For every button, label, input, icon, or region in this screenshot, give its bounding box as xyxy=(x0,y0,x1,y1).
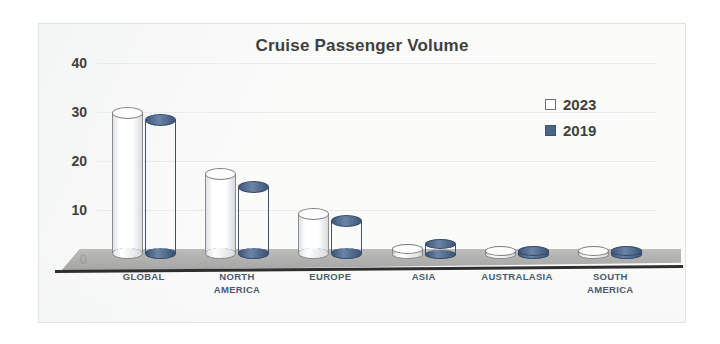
x-axis-label: NORTHAMERICA xyxy=(190,271,283,297)
bar-2023-australasia xyxy=(485,246,516,259)
x-axis-label: AUSTRALASIA xyxy=(470,271,563,297)
chart-screenshot: Cruise Passenger Volume 40 30 20 10 0 GL… xyxy=(0,0,720,344)
bar-top-ellipse xyxy=(238,181,269,193)
x-axis-label: ASIA xyxy=(377,271,470,297)
chart-frame: Cruise Passenger Volume 40 30 20 10 0 GL… xyxy=(38,23,686,323)
bar-top-ellipse xyxy=(112,107,143,119)
bar-bottom-ellipse xyxy=(331,248,362,259)
x-axis-label: EUROPE xyxy=(284,271,377,297)
bar-2019-north-america xyxy=(238,181,269,259)
legend-swatch-icon-2019 xyxy=(545,125,556,136)
bar-2023-north-america xyxy=(205,168,236,259)
x-axis-label: GLOBAL xyxy=(97,271,190,297)
bar-body xyxy=(238,187,269,254)
bar-2023-south-america xyxy=(578,246,609,259)
bar-group xyxy=(190,63,283,259)
bar-bottom-ellipse xyxy=(145,248,176,259)
bar-top-ellipse xyxy=(485,246,516,256)
x-axis-labels: GLOBALNORTHAMERICAEUROPEASIAAUSTRALASIAS… xyxy=(97,271,657,297)
legend-swatch-icon-2023 xyxy=(545,99,556,110)
legend-item-2023: 2023 xyxy=(545,96,596,113)
bar-2019-south-america xyxy=(611,246,642,259)
bar-2023-europe xyxy=(298,208,329,259)
bar-group xyxy=(470,63,563,259)
x-axis-label: SOUTHAMERICA xyxy=(564,271,657,297)
bar-body xyxy=(112,113,143,254)
chart-title: Cruise Passenger Volume xyxy=(39,36,685,56)
bar-2019-australasia xyxy=(518,246,549,259)
bar-body xyxy=(145,120,176,254)
bar-group xyxy=(284,63,377,259)
bar-bottom-ellipse xyxy=(238,248,269,259)
bar-group xyxy=(97,63,190,259)
bar-top-ellipse xyxy=(518,246,549,256)
bar-top-ellipse xyxy=(298,208,329,220)
y-axis-tick-40: 40 xyxy=(71,55,87,71)
legend-label-2023: 2023 xyxy=(563,96,596,113)
bar-bottom-ellipse xyxy=(425,250,456,259)
bar-body xyxy=(205,174,236,254)
bar-2019-europe xyxy=(331,215,362,259)
bar-bottom-ellipse xyxy=(112,248,143,259)
y-axis-tick-10: 10 xyxy=(71,202,87,218)
bar-top-ellipse xyxy=(331,215,362,227)
bar-2019-global xyxy=(145,114,176,259)
bar-2023-asia xyxy=(392,244,423,259)
chart-legend: 2023 2019 xyxy=(545,96,596,148)
bar-bottom-ellipse xyxy=(205,248,236,259)
bar-bottom-ellipse xyxy=(298,248,329,259)
y-axis-tick-30: 30 xyxy=(71,104,87,120)
plot-area: 40 30 20 10 0 xyxy=(97,63,657,259)
bar-2019-asia xyxy=(425,239,456,259)
bar-2023-global xyxy=(112,107,143,259)
bar-group xyxy=(564,63,657,259)
legend-item-2019: 2019 xyxy=(545,122,596,139)
bar-groups xyxy=(97,63,657,259)
y-axis-tick-20: 20 xyxy=(71,153,87,169)
bar-group xyxy=(377,63,470,259)
legend-label-2019: 2019 xyxy=(563,122,596,139)
